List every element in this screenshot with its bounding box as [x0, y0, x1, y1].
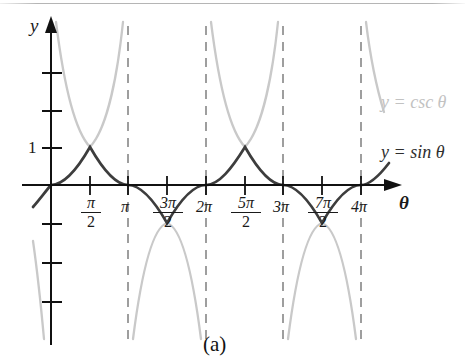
x-tick-label-pi-over-2-numerator: π [81, 195, 101, 211]
y-axis-label: y [30, 16, 38, 35]
legend-label-csc: y = csc θ [381, 93, 446, 111]
x-tick-label-4pi: 4π [351, 199, 367, 215]
figure-caption: (a) [203, 334, 226, 355]
x-tick-label-3pi: 3π [273, 199, 289, 215]
x-tick-label-5pi-over-2: 5π 2 [231, 195, 261, 231]
x-axis-arrowhead [384, 179, 402, 191]
x-tick-label-pi: π [121, 199, 129, 215]
x-tick-label-7pi-over-2: 7π 2 [308, 195, 338, 231]
x-tick-label-pi-over-2-denominator: 2 [81, 214, 101, 230]
x-tick-label-7pi-over-2-numerator: 7π [308, 195, 338, 211]
x-axis-label: θ [399, 193, 409, 212]
csc-curve [33, 22, 384, 339]
legend-label-sin: y = sin θ [381, 143, 444, 161]
x-tick-label-3pi-over-2-denominator: 2 [153, 214, 183, 230]
x-tick-label-3pi-over-2-numerator: 3π [153, 195, 183, 211]
figure-canvas [0, 0, 465, 362]
x-tick-label-2pi: 2π [196, 199, 212, 215]
x-tick-label-3pi-over-2: 3π 2 [153, 195, 183, 231]
x-tick-label-7pi-over-2-denominator: 2 [308, 214, 338, 230]
x-tick-label-5pi-over-2-denominator: 2 [231, 214, 261, 230]
x-tick-label-pi-over-2: π 2 [81, 195, 101, 231]
y-tick-label-1: 1 [28, 139, 37, 156]
x-tick-label-5pi-over-2-numerator: 5π [231, 195, 261, 211]
